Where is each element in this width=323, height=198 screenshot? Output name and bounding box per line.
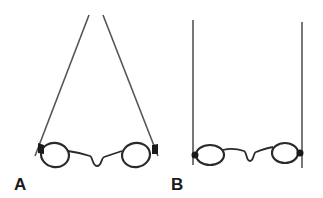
hinge-b-right: [297, 150, 304, 157]
lens-b-right: [272, 143, 298, 163]
spectacles-illustration: [0, 0, 323, 198]
hinge-a-left: [38, 143, 44, 154]
lens-a-right: [120, 141, 152, 169]
hinge-a-right: [152, 144, 158, 154]
spectacles-a: [35, 15, 158, 169]
hinge-b-left: [192, 152, 199, 159]
temple-a-right: [103, 15, 158, 156]
spectacles-b: [192, 20, 304, 168]
lens-b-left: [196, 145, 224, 165]
panel-label-b: B: [171, 176, 183, 193]
panel-label-a: A: [14, 176, 26, 193]
bridge-a: [68, 151, 122, 166]
temple-a-left: [35, 15, 89, 156]
bridge-b: [223, 147, 273, 161]
